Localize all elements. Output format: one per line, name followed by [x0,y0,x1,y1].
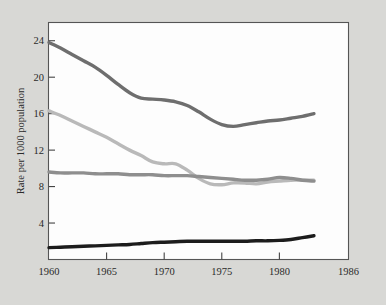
x-tick-label: 1965 [96,266,117,277]
y-tick-label: 24 [34,35,45,46]
y-tick-label: 16 [34,108,45,119]
plot-frame [49,23,349,260]
y-axis-title: Rate per 1000 population [15,87,26,194]
y-tick-label: 4 [39,218,45,229]
chart-figure: 4812162024 196019651970197519801986 Rate… [0,0,386,305]
y-tick-label: 20 [34,72,45,83]
x-tick-label: 1986 [338,266,359,277]
x-tick-label: 1980 [269,266,290,277]
y-tick-label: 12 [34,145,45,156]
x-tick-label: 1975 [211,266,232,277]
y-tick-label: 8 [39,181,44,192]
line-chart: 4812162024 196019651970197519801986 Rate… [0,0,386,305]
x-tick-label: 1970 [154,266,175,277]
x-tick-label: 1960 [39,266,60,277]
